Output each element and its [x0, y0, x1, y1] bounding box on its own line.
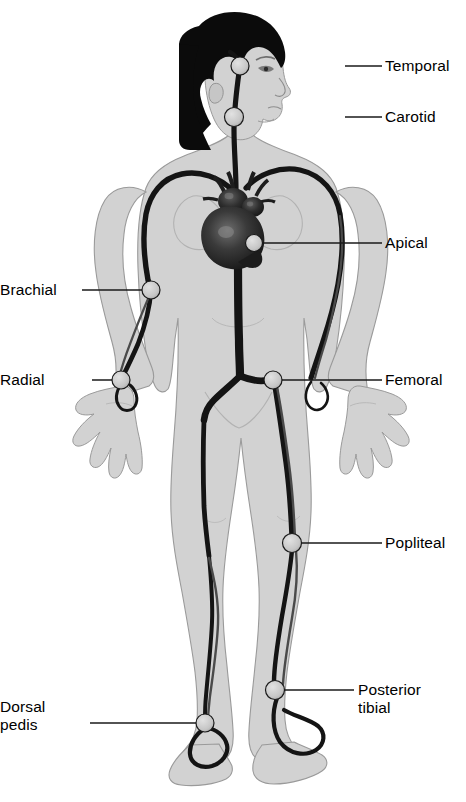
label-brachial-line-0: Brachial: [0, 281, 12, 299]
label-temporal: Temporal: [385, 57, 450, 75]
label-dorsal-pedis: Dorsalpedis: [0, 698, 22, 734]
label-femoral: Femoral: [385, 371, 443, 389]
pulse-marker-dorsal-pedis[interactable]: [196, 714, 214, 732]
label-temporal-line-0: Temporal: [385, 57, 450, 75]
pulse-marker-temporal[interactable]: [231, 57, 249, 75]
pulse-marker-brachial[interactable]: [142, 281, 160, 299]
pulse-marker-femoral[interactable]: [264, 371, 282, 389]
label-carotid: Carotid: [385, 108, 436, 126]
label-posterior-tibial-line-1: tibial: [358, 699, 421, 717]
pulse-marker-posterior-tibial[interactable]: [266, 681, 285, 700]
label-radial-line-0: Radial: [0, 371, 28, 389]
label-brachial: Brachial: [0, 281, 12, 299]
label-posterior-tibial: Posteriortibial: [358, 681, 421, 717]
label-popliteal-line-0: Popliteal: [385, 534, 445, 552]
pulse-marker-apical[interactable]: [246, 235, 263, 252]
label-femoral-line-0: Femoral: [385, 371, 443, 389]
label-apical: Apical: [385, 234, 428, 252]
body-silhouette: [138, 12, 344, 764]
label-popliteal: Popliteal: [385, 534, 445, 552]
diagram-canvas: TemporalCarotidApicalBrachialRadialFemor…: [0, 0, 466, 802]
label-carotid-line-0: Carotid: [385, 108, 436, 126]
label-dorsal-pedis-line-1: pedis: [0, 716, 22, 734]
label-apical-line-0: Apical: [385, 234, 428, 252]
pulse-marker-popliteal[interactable]: [283, 534, 302, 553]
pulse-marker-radial[interactable]: [112, 371, 130, 389]
label-dorsal-pedis-line-0: Dorsal: [0, 698, 22, 716]
pulse-marker-carotid[interactable]: [225, 108, 244, 127]
label-posterior-tibial-line-0: Posterior: [358, 681, 421, 699]
label-radial: Radial: [0, 371, 28, 389]
